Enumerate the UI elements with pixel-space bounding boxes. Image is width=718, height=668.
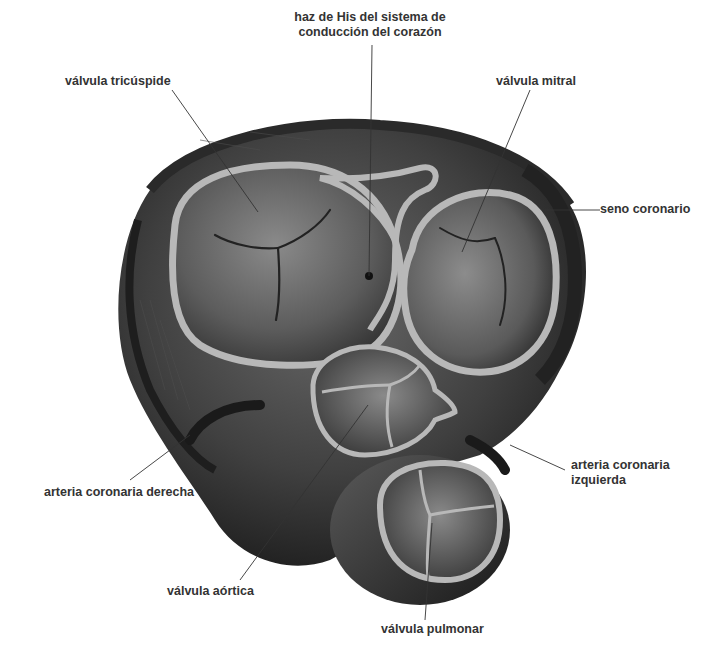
label-his-bundle-line1: haz de His del sistema de — [270, 10, 470, 25]
label-pulmonary-valve: válvula pulmonar — [381, 622, 484, 637]
label-his-bundle: haz de His del sistema de conducción del… — [270, 10, 470, 40]
label-mitral-valve: válvula mitral — [496, 74, 576, 89]
label-aortic-valve: válvula aórtica — [167, 584, 254, 599]
label-left-coronary-line1: arteria coronaria — [571, 458, 670, 473]
mitral-valve — [404, 192, 556, 372]
label-left-coronary-line2: izquierda — [571, 473, 670, 488]
heart-valves-illustration — [0, 0, 718, 668]
label-coronary-sinus: seno coronario — [600, 202, 690, 217]
label-his-bundle-line2: conducción del corazón — [270, 25, 470, 40]
tricuspid-valve — [173, 165, 401, 365]
label-tricuspid-valve: válvula tricúspide — [65, 74, 171, 89]
label-right-coronary-artery: arteria coronaria derecha — [44, 485, 194, 500]
pulmonary-valve — [380, 463, 500, 580]
label-left-coronary-artery: arteria coronaria izquierda — [571, 458, 670, 488]
leader-left-coronary — [510, 445, 565, 470]
